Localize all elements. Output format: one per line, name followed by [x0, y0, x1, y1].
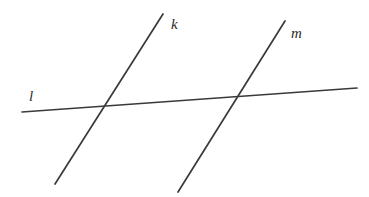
geometry-diagram: l k m	[0, 0, 369, 197]
figure-canvas: l k m	[0, 0, 369, 197]
label-k: k	[171, 16, 178, 32]
line-l	[22, 88, 357, 112]
label-l: l	[29, 88, 33, 104]
label-m: m	[291, 25, 302, 41]
line-m	[178, 21, 285, 192]
line-k	[55, 14, 163, 184]
